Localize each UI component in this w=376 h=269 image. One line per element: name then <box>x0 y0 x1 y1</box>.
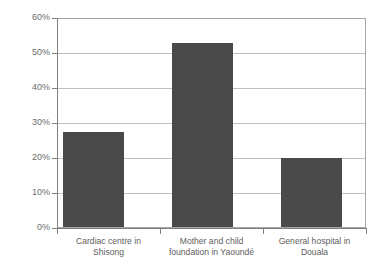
y-tick-mark-40 <box>52 88 57 89</box>
y-tick-label-0: 0% <box>20 223 50 232</box>
y-tick-label-wrap-30: 30% <box>18 118 50 128</box>
y-tick-label-wrap-60: 60% <box>18 13 50 23</box>
category-label-line-1: Mother and child <box>160 236 263 247</box>
y-tick-label-50: 50% <box>20 48 50 57</box>
bar-cardiac-centre-shisong <box>63 132 124 227</box>
category-label-general-hospital-douala: General hospital in Douala <box>263 236 366 258</box>
y-tick-label-30: 30% <box>20 118 50 127</box>
plot-area <box>57 18 366 228</box>
x-tick-mark-2 <box>263 229 264 234</box>
y-tick-mark-30 <box>52 123 57 124</box>
x-tick-mark-0 <box>57 229 58 234</box>
x-tick-mark-1 <box>160 229 161 234</box>
bar-chart: 60% 50% 40% 30% 20% 10% 0% Cardiac centr… <box>0 0 376 269</box>
category-label-mother-and-child-foundation-yaounde: Mother and child foundation in Yaoundé <box>160 236 263 258</box>
y-tick-mark-50 <box>52 53 57 54</box>
y-tick-label-10: 10% <box>20 188 50 197</box>
bar-mother-and-child-foundation-yaounde <box>172 43 233 227</box>
category-label-line-1: Cardiac centre in <box>57 236 160 247</box>
y-tick-label-60: 60% <box>20 13 50 22</box>
bar-general-hospital-douala <box>281 158 342 227</box>
y-tick-label-wrap-40: 40% <box>18 83 50 93</box>
y-tick-mark-60 <box>52 18 57 19</box>
y-tick-label-40: 40% <box>20 83 50 92</box>
y-tick-label-20: 20% <box>20 153 50 162</box>
category-label-cardiac-centre-shisong: Cardiac centre in Shisong <box>57 236 160 258</box>
y-tick-label-wrap-20: 20% <box>18 153 50 163</box>
x-tick-mark-3 <box>366 229 367 234</box>
category-label-line-2: Douala <box>263 247 366 258</box>
category-label-line-2: Shisong <box>57 247 160 258</box>
x-axis-line <box>57 228 367 229</box>
y-tick-label-wrap-0: 0% <box>18 223 50 233</box>
category-label-line-2: foundation in Yaoundé <box>160 247 263 258</box>
y-tick-label-wrap-50: 50% <box>18 48 50 58</box>
category-label-line-1: General hospital in <box>263 236 366 247</box>
y-tick-mark-20 <box>52 158 57 159</box>
y-tick-label-wrap-10: 10% <box>18 188 50 198</box>
y-axis-line <box>57 18 58 229</box>
y-tick-mark-10 <box>52 193 57 194</box>
